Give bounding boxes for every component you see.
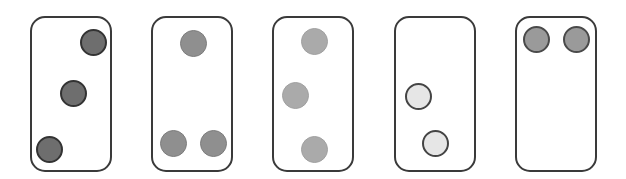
circle-dot-icon [180, 30, 207, 57]
circle-dot-icon [301, 136, 328, 163]
circle-dot-icon [36, 136, 63, 163]
circle-dot-icon [80, 29, 107, 56]
circle-dot-icon [200, 130, 227, 157]
circle-dot-icon [523, 26, 550, 53]
diagram-stage [0, 0, 626, 179]
circle-dot-icon [282, 82, 309, 109]
circle-dot-icon [405, 83, 432, 110]
circle-dot-icon [301, 28, 328, 55]
circle-dot-icon [563, 26, 590, 53]
circle-dot-icon [160, 130, 187, 157]
circle-dot-icon [60, 80, 87, 107]
circle-dot-icon [422, 130, 449, 157]
